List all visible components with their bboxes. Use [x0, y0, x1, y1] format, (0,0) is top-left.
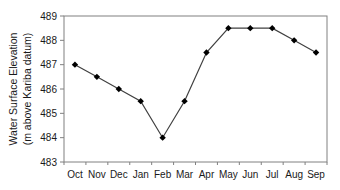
- x-tick-label: Jun: [242, 169, 258, 180]
- y-tick-label: 483: [40, 157, 57, 168]
- plot-area: [64, 16, 327, 162]
- x-tick-label: Jan: [133, 169, 149, 180]
- x-tick-label: Dec: [110, 169, 128, 180]
- water-elevation-chart: Water Surface Elevation (m above Kariba …: [0, 0, 340, 190]
- series-line: [75, 28, 316, 138]
- data-point-diamond-icon: [159, 134, 165, 140]
- x-tick-label: Jul: [266, 169, 279, 180]
- x-tick-label: Mar: [176, 169, 194, 180]
- x-tick-label: Sep: [307, 169, 325, 180]
- data-point-diamond-icon: [94, 74, 100, 80]
- data-point-diamond-icon: [247, 25, 253, 31]
- y-axis-ticks: 483484485486487488489: [40, 11, 64, 168]
- data-point-diamond-icon: [72, 61, 78, 67]
- x-tick-label: Oct: [67, 169, 83, 180]
- data-point-diamond-icon: [181, 98, 187, 104]
- y-axis-title: Water Surface Elevation (m above Kariba …: [7, 32, 33, 145]
- y-tick-label: 487: [40, 59, 57, 70]
- y-tick-label: 489: [40, 11, 57, 22]
- x-tick-label: Nov: [88, 169, 106, 180]
- x-axis-ticks: OctNovDecJanFebMarAprMayJunJulAugSep: [64, 162, 327, 180]
- y-tick-label: 488: [40, 35, 57, 46]
- data-point-diamond-icon: [138, 98, 144, 104]
- x-tick-label: May: [219, 169, 238, 180]
- y-tick-label: 485: [40, 108, 57, 119]
- x-tick-label: Aug: [285, 169, 303, 180]
- y-tick-label: 484: [40, 132, 57, 143]
- data-point-diamond-icon: [291, 37, 297, 43]
- y-axis-title-line1: Water Surface Elevation: [7, 32, 19, 145]
- data-point-diamond-icon: [116, 86, 122, 92]
- x-tick-label: Feb: [154, 169, 172, 180]
- x-tick-label: Apr: [199, 169, 215, 180]
- y-axis-title-line2: (m above Kariba datum): [21, 33, 33, 146]
- data-point-diamond-icon: [269, 25, 275, 31]
- y-tick-label: 486: [40, 84, 57, 95]
- data-point-diamond-icon: [313, 49, 319, 55]
